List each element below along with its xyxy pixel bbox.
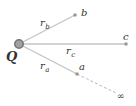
point-c [124, 42, 128, 46]
point-b [73, 13, 77, 17]
distance-ra-label: ra [40, 60, 49, 74]
field-diagram: Q b c a rb rc ra ∞ [0, 0, 136, 106]
distance-rc-label: rc [66, 45, 75, 59]
point-c-label: c [123, 31, 129, 42]
distance-rb-label: rb [40, 17, 50, 31]
line-to-infinity [77, 74, 116, 93]
infinity-label: ∞ [117, 91, 125, 101]
point-b-label: b [81, 7, 87, 18]
point-a-label: a [79, 61, 85, 72]
point-a [75, 72, 79, 76]
charge-q-icon [15, 40, 23, 48]
charge-label: Q [6, 49, 18, 64]
